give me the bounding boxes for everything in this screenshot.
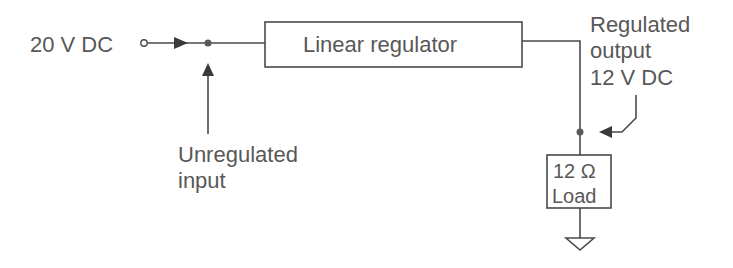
output-wire	[522, 41, 580, 155]
regulated-output-pointer-line	[610, 95, 636, 132]
regulated-output-label-line3: 12 V DC	[590, 65, 673, 90]
unregulated-input-pointer-arrow-icon	[202, 63, 214, 76]
regulated-output-pointer-arrow-icon	[599, 126, 612, 138]
load-resistance-label: 12 Ω	[553, 160, 596, 182]
ground-icon	[566, 238, 594, 250]
input-voltage-label: 20 V DC	[30, 32, 113, 57]
input-junction-dot	[205, 40, 212, 47]
regulator-diagram: 20 V DC Unregulated input Linear regulat…	[0, 0, 733, 268]
unregulated-input-label-line2: input	[178, 168, 226, 193]
load-label: Load	[552, 185, 597, 207]
output-junction-dot	[577, 129, 584, 136]
unregulated-input-label-line1: Unregulated	[178, 142, 298, 167]
input-terminal-icon	[141, 40, 147, 46]
current-direction-arrow-icon	[174, 37, 188, 49]
regulated-output-label-line1: Regulated	[590, 12, 690, 37]
linear-regulator-label: Linear regulator	[303, 32, 457, 57]
regulated-output-label-line2: output	[590, 38, 651, 63]
